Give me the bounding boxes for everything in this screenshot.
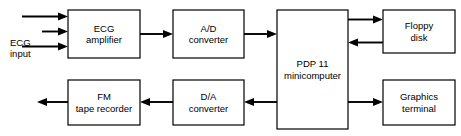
connector-pdp-to-da <box>244 98 277 106</box>
label-ecg-input: ECG input <box>10 25 31 60</box>
block-floppy-disk <box>383 10 455 53</box>
connector-da-to-tape <box>140 98 173 106</box>
block-diagram: ECG amplifier A/D converter PDP 11 minic… <box>0 0 461 136</box>
connector-ecg-input-lead-2 <box>42 27 68 35</box>
block-pdp-11-minicomputer <box>277 10 348 129</box>
label-ecg-input-text: ECG input <box>10 37 31 60</box>
connector-pdp-to-floppy <box>348 15 383 23</box>
connector-ecg-input-lead-1 <box>22 12 68 20</box>
connector-tape-output <box>37 98 68 106</box>
block-fm-tape-recorder <box>68 80 140 125</box>
block-ad-converter <box>173 10 244 58</box>
block-da-converter <box>173 80 244 125</box>
block-graphics-terminal <box>383 80 455 125</box>
connector-pdp-to-graphics <box>348 98 383 106</box>
connector-amplifier-to-ad <box>140 30 173 38</box>
connector-ad-to-pdp <box>244 30 277 38</box>
connector-floppy-to-pdp <box>348 38 383 46</box>
diagram-canvas <box>0 0 461 136</box>
block-ecg-amplifier <box>68 10 140 58</box>
